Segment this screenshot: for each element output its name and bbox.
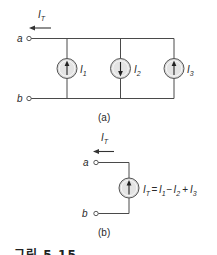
terminal-b-node (27, 96, 31, 100)
current-source-1: I1 (57, 39, 87, 99)
current-source-3: I3 (164, 39, 194, 99)
circuit-diagram: IT a b I1 I2 (0, 0, 217, 255)
arrowhead-icon (29, 26, 35, 31)
caption-a: (a) (98, 112, 110, 123)
terminal-b-label-b: b (82, 208, 88, 219)
current-source-2: I2 (111, 39, 141, 99)
terminal-a-node (27, 36, 31, 40)
terminal-b-label: b (17, 93, 23, 104)
arrowhead-icon (93, 149, 99, 154)
terminal-a-node-b (94, 160, 98, 164)
figure-a: IT a b I1 I2 (17, 9, 194, 123)
terminal-a-label: a (17, 33, 23, 44)
equivalent-current-equation: IT=I1−I2+I3 (143, 184, 197, 197)
total-current-label-b: IT (101, 132, 109, 145)
figure-caption-partial: 그림 5.15 (14, 247, 77, 255)
source-3-label: I3 (187, 64, 194, 77)
terminal-a-label-b: a (83, 157, 89, 168)
source-1-label: I1 (80, 64, 87, 77)
caption-b: (b) (98, 227, 110, 238)
total-current-label-a: IT (38, 9, 46, 22)
total-current-indicator-a: IT (29, 9, 51, 31)
total-current-indicator-b: IT (93, 132, 114, 154)
equivalent-current-source (119, 178, 139, 198)
source-2-label: I2 (134, 64, 141, 77)
terminal-b-node-b (94, 211, 98, 215)
figure-b: IT a b IT=I1−I2+I3 (b) (82, 132, 197, 238)
